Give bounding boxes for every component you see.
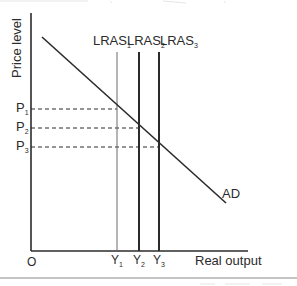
- ad-label: AD: [222, 186, 240, 201]
- lras-ad-diagram: Price level LRAS1 LRAS2 LRAS3 P1 P2 P3 Y…: [0, 0, 297, 286]
- lras3-label: LRAS3: [160, 33, 198, 49]
- y3-label: Y3: [153, 253, 165, 268]
- y-axis-label: Price level: [9, 18, 24, 78]
- x-axis-label: Real output: [195, 253, 262, 268]
- ad-curve: [42, 37, 226, 203]
- y2-label: Y2: [133, 253, 145, 268]
- origin-label: O: [27, 255, 36, 269]
- cropped-caption-top: [0, 1, 226, 3]
- y1-label: Y1: [111, 253, 123, 268]
- p1-label: P1: [16, 100, 29, 116]
- p3-label: P3: [16, 138, 29, 154]
- lras1-label: LRAS1: [93, 33, 131, 49]
- p2-label: P2: [16, 119, 29, 135]
